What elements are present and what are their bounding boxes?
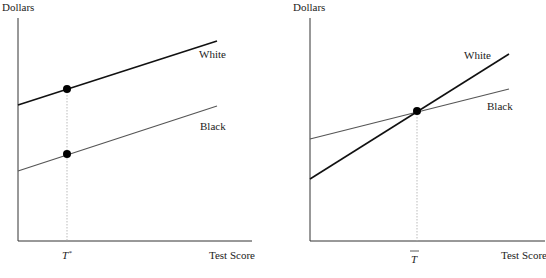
right-black-label: Black bbox=[487, 100, 513, 112]
right-tbar-label: T bbox=[411, 253, 418, 265]
figure: Dollars White Black T* Test Score Dollar… bbox=[0, 0, 546, 278]
left-chart: Dollars White Black T* Test Score bbox=[2, 1, 255, 261]
left-black-line bbox=[18, 106, 217, 171]
left-black-label: Black bbox=[200, 120, 226, 132]
left-white-label: White bbox=[199, 48, 226, 60]
right-intersection-point bbox=[413, 107, 421, 115]
left-white-point bbox=[63, 85, 71, 93]
left-y-axis-label: Dollars bbox=[2, 1, 34, 13]
left-black-point bbox=[63, 150, 71, 158]
right-x-axis-label: Test Score bbox=[501, 249, 546, 261]
right-white-label: White bbox=[464, 49, 491, 61]
left-tstar-label: T* bbox=[62, 249, 72, 261]
right-y-axis-label: Dollars bbox=[293, 1, 325, 13]
right-chart: Dollars White Black T Test Score bbox=[293, 1, 546, 265]
left-white-line bbox=[18, 41, 217, 105]
left-x-axis-label: Test Score bbox=[209, 249, 255, 261]
right-white-line bbox=[310, 54, 509, 179]
right-black-line bbox=[310, 89, 509, 139]
